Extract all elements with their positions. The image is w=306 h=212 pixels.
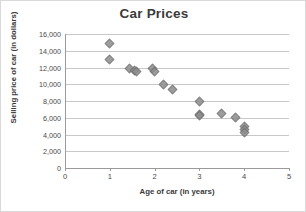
y-axis-tick-label: 12,000 [39, 63, 61, 72]
plot-area [65, 34, 289, 168]
data-point [105, 55, 115, 65]
x-axis-tick-label: 1 [108, 172, 112, 181]
y-axis-tick-label: 14,000 [39, 46, 61, 55]
gridline [65, 151, 289, 152]
data-point [168, 84, 178, 94]
x-axis-tick-labels: 012345 [65, 172, 289, 184]
y-axis-tick-label: 16,000 [39, 30, 61, 39]
x-axis-tick-mark [110, 168, 111, 171]
data-point [230, 113, 240, 123]
chart-figure: Car Prices 02,0004,0006,0008,00010,00012… [0, 0, 306, 212]
x-axis-tick-label: 2 [152, 172, 156, 181]
gridline [65, 118, 289, 119]
x-axis-tick-label: 3 [197, 172, 201, 181]
y-axis-tick-label: 8,000 [43, 97, 61, 106]
data-point [105, 38, 115, 48]
gridline [65, 51, 289, 52]
y-axis-title: Selling price of car (in dollars) [9, 3, 18, 133]
x-axis-tick-mark [289, 168, 290, 171]
x-axis-tick-label: 5 [287, 172, 291, 181]
y-axis-tick-label: 6,000 [43, 113, 61, 122]
gridline [65, 101, 289, 102]
x-axis-tick-mark [65, 168, 66, 171]
x-axis-tick-mark [244, 168, 245, 171]
gridline [65, 68, 289, 69]
y-axis-tick-label: 4,000 [43, 130, 61, 139]
y-axis-tick-label: 2,000 [43, 147, 61, 156]
x-axis-tick-label: 0 [63, 172, 67, 181]
y-axis-tick-label: 0 [57, 164, 61, 173]
chart-title: Car Prices [1, 6, 306, 21]
gridline [65, 34, 289, 35]
y-axis-tick-label: 10,000 [39, 80, 61, 89]
x-axis-title: Age of car (in years) [65, 187, 289, 196]
data-point [194, 96, 204, 106]
x-axis-tick-mark [155, 168, 156, 171]
y-axis-line [65, 34, 66, 169]
x-axis-tick-mark [199, 168, 200, 171]
gridline [65, 84, 289, 85]
gridline [65, 135, 289, 136]
x-axis-tick-label: 4 [242, 172, 246, 181]
